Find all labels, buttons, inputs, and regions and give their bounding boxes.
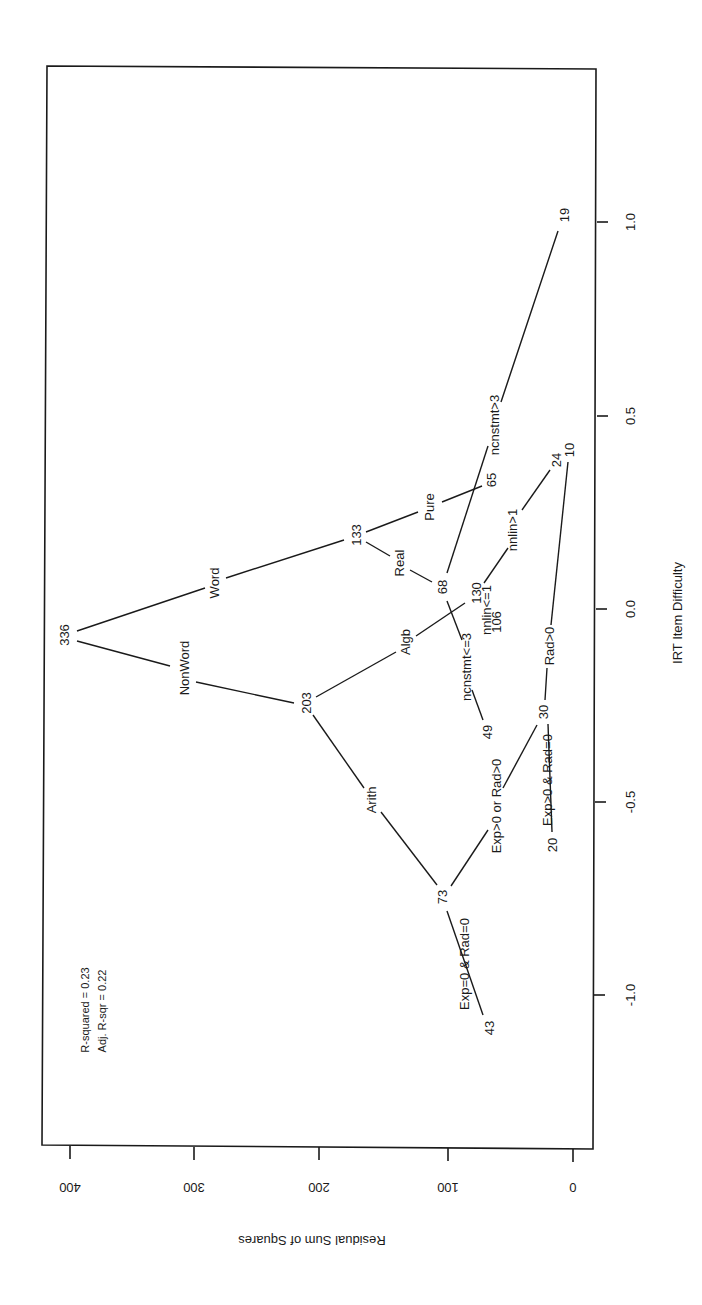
rss-tick-label: 200 bbox=[308, 1180, 330, 1195]
edge-pure bbox=[442, 486, 482, 502]
node-65: 65 bbox=[484, 473, 499, 487]
node-30: 30 bbox=[536, 705, 551, 719]
irt-axis: 1.0 0.5 0.0 -0.5 -1.0 IRT Item Difficult… bbox=[594, 213, 685, 1006]
regression-tree-chart: 1.0 0.5 0.0 -0.5 -1.0 IRT Item Difficult… bbox=[0, 0, 702, 1305]
split-real: Real bbox=[392, 550, 407, 577]
split-nonword: NonWord bbox=[177, 641, 192, 696]
edge-arith bbox=[313, 715, 364, 788]
plot-frame bbox=[42, 66, 596, 1149]
fit-statistics: R-squared = 0.23 Adj. R-sqr = 0.22 bbox=[79, 967, 108, 1052]
edge-algb bbox=[416, 603, 465, 636]
edge-nnlin-gt1 bbox=[484, 548, 508, 583]
rss-tick-label: 100 bbox=[437, 1180, 459, 1195]
edge-word bbox=[77, 588, 205, 631]
adj-r-squared-text: Adj. R-sqr = 0.22 bbox=[96, 970, 108, 1053]
split-algb: Algb bbox=[398, 629, 413, 655]
rss-tick-label: 0 bbox=[569, 1180, 576, 1195]
edge-rad-gt0 bbox=[551, 462, 568, 625]
edge-nnlin-gt1 bbox=[522, 470, 550, 510]
edge-rad-gt0 bbox=[545, 668, 547, 700]
node-133: 133 bbox=[349, 524, 364, 546]
split-exp-or-rad: Exp>0 or Rad>0 bbox=[489, 759, 504, 854]
split-rad-gt0: Rad>0 bbox=[542, 627, 557, 666]
edge-exp-or-rad bbox=[503, 725, 537, 788]
rss-axis: 400 300 200 100 0 Residual Sum of Square… bbox=[59, 1146, 576, 1248]
edge-nonword bbox=[77, 641, 170, 666]
split-arith: Arith bbox=[364, 787, 379, 814]
irt-tick-label: -0.5 bbox=[623, 791, 638, 813]
node-203: 203 bbox=[299, 692, 314, 714]
edge-real bbox=[366, 542, 390, 556]
split-nnlin-le1: nnlin<=1 bbox=[479, 585, 494, 635]
split-ncnstmt-le3: ncnstmt<=3 bbox=[459, 633, 474, 701]
split-pure: Pure bbox=[422, 493, 437, 520]
irt-tick-label: 1.0 bbox=[623, 213, 638, 231]
node-73: 73 bbox=[435, 890, 450, 904]
r-squared-text: R-squared = 0.23 bbox=[79, 967, 91, 1052]
tree-nodes: 336 133 203 65 68 19 49 130 24 106 73 30… bbox=[57, 208, 577, 1035]
rss-axis-title: Residual Sum of Squares bbox=[238, 1233, 386, 1248]
edge-real bbox=[410, 570, 432, 582]
edge-algb bbox=[316, 652, 396, 697]
edge-arith bbox=[381, 812, 437, 885]
node-19: 19 bbox=[557, 208, 572, 222]
node-49: 49 bbox=[480, 725, 495, 739]
node-336: 336 bbox=[57, 624, 72, 646]
node-20: 20 bbox=[545, 838, 560, 852]
node-10: 10 bbox=[562, 443, 577, 457]
edge-word bbox=[226, 540, 344, 578]
edge-ncnstmt-gt3 bbox=[447, 446, 488, 573]
split-exp0-rad0: Exp=0 & Rad=0 bbox=[457, 918, 472, 1010]
split-word: Word bbox=[207, 568, 222, 599]
node-43: 43 bbox=[482, 1021, 497, 1035]
split-exp-gt0-rad0: Exp>0 & Rad=0 bbox=[540, 734, 555, 826]
edge-exp-or-rad bbox=[451, 830, 488, 886]
split-ncnstmt-gt3: ncnstmt>3 bbox=[487, 395, 502, 455]
split-labels: Word NonWord Pure Real ncnstmt>3 ncnstmt… bbox=[177, 395, 557, 1010]
edge-nonword bbox=[196, 682, 294, 703]
irt-tick-label: 0.5 bbox=[623, 407, 638, 425]
node-68: 68 bbox=[435, 580, 450, 594]
split-nnlin-gt1: nnlin>1 bbox=[505, 509, 520, 551]
edge-pure bbox=[366, 512, 418, 532]
irt-axis-title: IRT Item Difficulty bbox=[670, 562, 685, 664]
rss-tick-label: 300 bbox=[183, 1180, 205, 1195]
rss-tick-label: 400 bbox=[59, 1180, 81, 1195]
edge-ncnstmt-gt3 bbox=[501, 231, 558, 402]
irt-tick-label: 0.0 bbox=[623, 600, 638, 618]
irt-tick-label: -1.0 bbox=[623, 984, 638, 1006]
